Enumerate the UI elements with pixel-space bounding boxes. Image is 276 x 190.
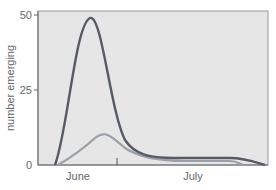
- y-tick-label-50: 50: [20, 9, 32, 21]
- plot-area: [38, 11, 268, 165]
- y-tick-label-0: 0: [26, 159, 32, 171]
- x-tick-label-june: June: [66, 170, 90, 182]
- x-tick-label-july: July: [183, 170, 203, 182]
- y-axis-title: number emerging: [4, 45, 16, 131]
- y-tick-label-25: 25: [20, 84, 32, 96]
- emergence-chart: 50 25 0 June July number emerging: [0, 0, 276, 190]
